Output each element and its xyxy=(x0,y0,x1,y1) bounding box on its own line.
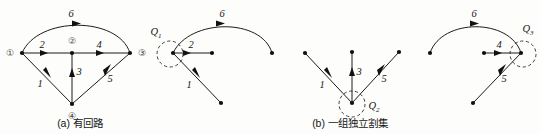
edge-5-label-q3: 5 xyxy=(501,73,506,84)
edge-4-arrowhead-q3 xyxy=(494,50,502,56)
edge-4-label: 4 xyxy=(96,39,102,50)
node-dot-q1-bottom xyxy=(219,101,223,105)
cut-set-q2-subscript: 2 xyxy=(376,106,380,114)
panel-a: ① ② ③ ④ 6 2 4 1 3 5 (a) 有回路 xyxy=(6,8,146,129)
node-3-dot xyxy=(128,51,132,55)
edge-3-label-q2: 3 xyxy=(355,66,361,77)
node-3-label: ③ xyxy=(138,48,146,58)
edge-6-label-q1: 6 xyxy=(219,8,225,19)
node-1-dot xyxy=(20,51,24,55)
node-dot-q1-arcend xyxy=(270,51,274,55)
edge-1-label-q1: 1 xyxy=(186,79,191,90)
edge-5-label: 5 xyxy=(107,73,112,84)
edge-6-label: 6 xyxy=(68,8,74,19)
node-1-label: ① xyxy=(6,48,14,58)
panel-b-left: 6 2 1 Q1 xyxy=(150,8,274,105)
edge-1-label-q2: 1 xyxy=(319,79,324,90)
edge-5-line xyxy=(72,53,130,104)
node-dot-q1-center xyxy=(171,51,175,55)
edge-1-label: 1 xyxy=(37,78,42,89)
node-dot-q2-left xyxy=(303,51,307,55)
panel-b-middle: 1 3 5 Q2 (b) 一组独立割集 xyxy=(303,50,401,129)
node-dot-q3-left xyxy=(482,51,486,55)
node-dot-q2-right xyxy=(397,50,401,54)
node-4-dot xyxy=(70,102,74,106)
node-2-label: ② xyxy=(68,36,76,46)
cut-set-q1-circle xyxy=(157,41,183,67)
node-dot-q2-center xyxy=(350,101,354,105)
edge-3-arrowhead xyxy=(69,68,75,77)
node-dot-q1-right xyxy=(210,51,214,55)
edge-5-line-q3 xyxy=(473,53,521,103)
node-dot-q3-bottom xyxy=(471,101,475,105)
edge-2-arrowhead xyxy=(40,50,48,56)
edge-4-arrowhead xyxy=(96,50,104,56)
edge-1-line-q1 xyxy=(173,53,221,103)
edge-2-arrowhead-q1 xyxy=(183,50,191,56)
cut-set-q1-subscript: 1 xyxy=(158,32,162,40)
edge-6-arc-q3 xyxy=(430,27,521,53)
cut-set-q3-subscript: 3 xyxy=(529,29,534,37)
cut-set-q1-label: Q1 xyxy=(150,26,161,40)
edge-1-arrowhead-q2 xyxy=(324,67,332,78)
node-dot-q2-top xyxy=(350,50,354,54)
edge-2-label: 2 xyxy=(39,39,45,50)
graph-figure: ① ② ③ ④ 6 2 4 1 3 5 (a) 有回路 xyxy=(0,0,540,134)
node-dot-q3-center xyxy=(519,51,523,55)
node-dot-q3-arcstart xyxy=(428,51,432,55)
cut-set-q3-circle xyxy=(510,41,536,67)
edge-6-arc xyxy=(22,25,130,53)
edge-5-line-q2 xyxy=(352,52,399,103)
caption-a: (a) 有回路 xyxy=(57,117,104,129)
edge-4-label-q3: 4 xyxy=(496,39,502,50)
edge-1-line-q2 xyxy=(305,53,352,103)
caption-b: (b) 一组独立割集 xyxy=(312,117,389,129)
edge-6-arrowhead-q3 xyxy=(470,21,479,27)
cut-set-q2-label: Q2 xyxy=(368,100,380,114)
panel-b-right: 6 4 5 Q3 xyxy=(428,8,536,105)
edge-5-label-q2: 5 xyxy=(381,73,386,84)
edge-1-line xyxy=(22,53,72,104)
edge-6-arrowhead-q1 xyxy=(216,21,225,27)
edge-3-arrowhead-q2 xyxy=(349,67,355,76)
edge-3-label: 3 xyxy=(75,66,81,77)
node-2-dot xyxy=(70,51,74,55)
edge-6-label-q3: 6 xyxy=(471,8,477,19)
cut-set-q3-label: Q3 xyxy=(522,23,534,37)
figure-container: ① ② ③ ④ 6 2 4 1 3 5 (a) 有回路 xyxy=(0,0,540,134)
edge-2-label-q1: 2 xyxy=(188,39,194,50)
